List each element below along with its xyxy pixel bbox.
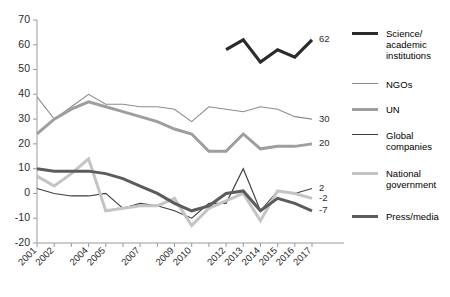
chart-screenshot: -20-10010203040506070 200120022004200520…: [0, 0, 450, 297]
y-tick-label: 20: [18, 137, 30, 149]
legend-label: Science/ academic institutions: [386, 28, 431, 62]
legend-item: UN: [352, 104, 400, 115]
x-tick-label: 2014: [239, 245, 262, 268]
series-end-value: 30: [319, 113, 330, 124]
x-tick-label: 2016: [273, 245, 296, 268]
x-axis: 2001200220042005200720092010201220132014…: [16, 243, 344, 267]
legend-swatch: [352, 172, 378, 175]
legend-item: Global companies: [352, 130, 432, 152]
series-line: [226, 40, 312, 62]
legend-swatch: [352, 215, 378, 218]
legend-label: Press/media: [386, 211, 439, 222]
legend-item: National government: [352, 168, 436, 190]
y-tick-label: 60: [18, 38, 30, 50]
x-tick-label: 2013: [222, 245, 245, 268]
y-tick-label: 50: [18, 62, 30, 74]
legend-label: National government: [386, 168, 436, 190]
x-tick-label: 2004: [67, 245, 90, 268]
series-end-value: -2: [319, 192, 327, 203]
legend-swatch: [352, 32, 378, 35]
y-tick-label: 10: [18, 161, 30, 173]
chart-legend: Science/ academic institutionsNGOsUNGlob…: [352, 0, 450, 297]
series-line: [37, 169, 312, 211]
y-tick-label: -10: [15, 211, 30, 223]
legend-item: Science/ academic institutions: [352, 28, 431, 62]
legend-label: UN: [386, 104, 400, 115]
end-value-labels: 6230202-2-7: [319, 33, 330, 215]
legend-label: Global companies: [386, 130, 432, 152]
series-line: [37, 169, 312, 219]
series-end-value: 20: [319, 137, 330, 148]
series-end-value: 62: [319, 33, 330, 44]
y-tick-label: 30: [18, 112, 30, 124]
y-tick-label: 40: [18, 87, 30, 99]
x-tick-label: 2017: [291, 245, 314, 268]
y-tick-label: -20: [15, 236, 30, 248]
x-tick-label: 2001: [16, 245, 39, 268]
legend-item: Press/media: [352, 211, 439, 222]
y-tick-label: 0: [24, 186, 30, 198]
legend-swatch: [352, 134, 378, 135]
series-line: [37, 94, 312, 121]
legend-item: NGOs: [352, 79, 412, 90]
legend-swatch: [352, 83, 378, 84]
x-tick-label: 2009: [153, 245, 176, 268]
x-tick-label: 2015: [256, 245, 279, 268]
x-tick-label: 2012: [205, 245, 228, 268]
x-tick-label: 2010: [170, 245, 193, 268]
series-layer: [37, 40, 312, 226]
legend-label: NGOs: [386, 79, 412, 90]
series-end-value: -7: [319, 204, 327, 215]
x-tick-label: 2007: [119, 245, 142, 268]
x-tick-label: 2005: [84, 245, 107, 268]
series-line: [37, 159, 312, 226]
y-tick-label: 70: [18, 13, 30, 25]
legend-swatch: [352, 108, 378, 111]
x-tick-label: 2002: [33, 245, 56, 268]
y-axis: -20-10010203040506070: [15, 13, 37, 248]
